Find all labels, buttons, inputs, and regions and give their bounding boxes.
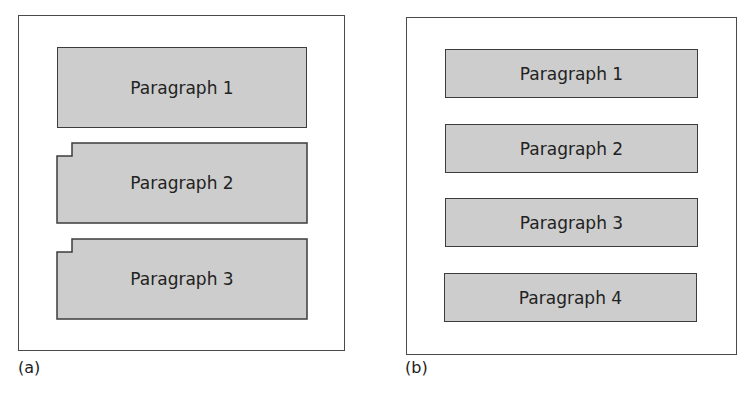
panel-b-paragraph-4: Paragraph 4 xyxy=(444,273,697,322)
paragraph-label: Paragraph 3 xyxy=(130,269,233,289)
panel-a-paragraph-3: Paragraph 3 xyxy=(56,238,308,320)
panel-a-caption: (a) xyxy=(18,358,40,377)
paragraph-label: Paragraph 4 xyxy=(519,288,622,308)
paragraph-label: Paragraph 1 xyxy=(130,78,233,98)
panel-b-paragraph-2: Paragraph 2 xyxy=(445,124,698,173)
panel-b-paragraph-3: Paragraph 3 xyxy=(445,198,698,247)
paragraph-label: Paragraph 2 xyxy=(520,139,623,159)
paragraph-label: Paragraph 2 xyxy=(130,173,233,193)
paragraph-label: Paragraph 1 xyxy=(520,64,623,84)
panel-b-paragraph-1: Paragraph 1 xyxy=(445,49,698,98)
panel-a-paragraph-1: Paragraph 1 xyxy=(57,47,307,128)
paragraph-label: Paragraph 3 xyxy=(520,213,623,233)
panel-a-paragraph-2: Paragraph 2 xyxy=(56,142,308,224)
panel-b-caption: (b) xyxy=(405,358,428,377)
